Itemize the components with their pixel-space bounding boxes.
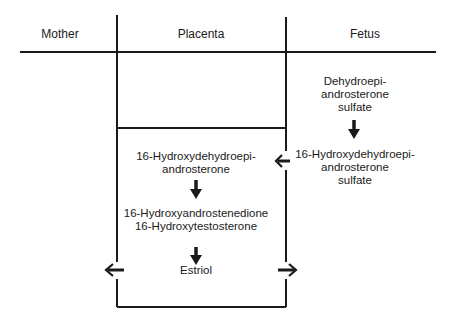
node-estriol: Estriol [166, 264, 226, 277]
arrow-left-icon [106, 264, 124, 276]
arrow-down-icon [190, 247, 202, 265]
arrow-left-icon [276, 155, 290, 167]
compartment-label-placenta: Placenta [161, 28, 241, 41]
node-line: 16-Hydroxytestosterone [122, 220, 270, 233]
node-line: Dehydroepi- [300, 75, 410, 88]
estriol-synthesis-diagram: Mother Placenta Fetus Dehydroepi- andros… [0, 0, 452, 323]
node-16oh-intermediates: 16-Hydroxyandrostenedione 16-Hydroxytest… [122, 207, 270, 233]
node-line: sulfate [300, 101, 410, 114]
node-16oh-dhea-sulfate: 16-Hydroxydehydroepi- androsterone sulfa… [294, 148, 416, 187]
node-line: sulfate [294, 174, 416, 187]
node-line: androsterone [130, 163, 262, 176]
arrow-down-icon [190, 180, 202, 199]
compartment-label-mother: Mother [30, 28, 90, 41]
node-line: androsterone [294, 161, 416, 174]
compartment-label-fetus: Fetus [335, 28, 395, 41]
arrow-down-icon [348, 120, 360, 139]
node-16oh-dhea: 16-Hydroxydehydroepi- androsterone [130, 150, 262, 176]
node-line: 16-Hydroxydehydroepi- [294, 148, 416, 161]
arrow-right-icon [278, 264, 296, 276]
node-line: androsterone [300, 88, 410, 101]
node-dhea-sulfate: Dehydroepi- androsterone sulfate [300, 75, 410, 114]
node-line: 16-Hydroxyandrostenedione [122, 207, 270, 220]
node-line: 16-Hydroxydehydroepi- [130, 150, 262, 163]
